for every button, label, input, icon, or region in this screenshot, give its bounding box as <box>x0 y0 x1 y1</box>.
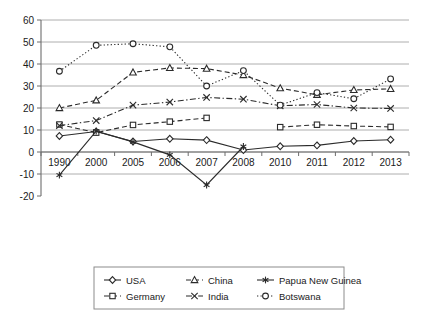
legend-label: China <box>208 275 234 286</box>
data-point-marker <box>204 83 210 89</box>
x-axis-tick-label: 1990 <box>48 157 71 168</box>
x-axis-tick-label: 2012 <box>343 157 366 168</box>
y-axis-tick-label: 20 <box>23 103 35 114</box>
y-axis-tick-label: -10 <box>20 169 35 180</box>
data-point-marker <box>351 123 356 128</box>
data-point-marker <box>167 119 172 124</box>
y-axis-tick-label: 10 <box>23 125 35 136</box>
legend-label: Botswana <box>279 291 321 302</box>
data-point-marker <box>241 68 247 74</box>
line-chart: -20-100102030405060 19902000200520062007… <box>0 0 422 318</box>
y-axis-tick-label: -20 <box>20 191 35 202</box>
data-point-marker <box>130 122 135 127</box>
y-axis-tick-label: 0 <box>28 147 34 158</box>
legend-label: Germany <box>126 291 165 302</box>
data-point-marker <box>110 293 115 298</box>
x-axis-tick-label: 2000 <box>85 157 108 168</box>
legend-label: Papua New Guinea <box>279 275 362 286</box>
data-point-marker <box>130 41 136 47</box>
data-point-marker <box>277 102 283 108</box>
legend-label: USA <box>126 275 146 286</box>
x-axis-tick-label: 2013 <box>379 157 402 168</box>
data-point-marker <box>57 122 62 127</box>
legend-border <box>94 267 344 309</box>
data-point-marker <box>388 124 393 129</box>
data-point-marker <box>167 44 173 50</box>
y-axis-tick-label: 40 <box>23 59 35 70</box>
x-axis-tick-label: 2010 <box>269 157 292 168</box>
data-point-marker <box>204 115 209 120</box>
data-point-marker <box>351 96 357 102</box>
data-point-marker <box>263 293 269 299</box>
legend-label: India <box>208 291 229 302</box>
y-axis-tick-label: 50 <box>23 37 35 48</box>
x-axis-tick-label: 2005 <box>122 157 145 168</box>
x-axis-tick-label: 2008 <box>232 157 255 168</box>
x-axis-tick-label: 2011 <box>306 157 328 168</box>
data-point-marker <box>57 68 63 74</box>
x-axis-tick-label: 2006 <box>159 157 182 168</box>
data-point-marker <box>93 42 99 48</box>
chart-legend: USAChinaPapua New GuineaGermanyIndiaBots… <box>94 267 362 309</box>
x-axis-tick-label: 2007 <box>195 157 218 168</box>
y-axis-tick-label: 30 <box>23 81 35 92</box>
data-point-marker <box>278 124 283 129</box>
y-axis-tick-label: 60 <box>23 15 35 26</box>
chart-canvas: -20-100102030405060 19902000200520062007… <box>0 0 422 318</box>
data-point-marker <box>388 76 394 82</box>
data-point-marker <box>314 90 320 96</box>
data-point-marker <box>314 122 319 127</box>
